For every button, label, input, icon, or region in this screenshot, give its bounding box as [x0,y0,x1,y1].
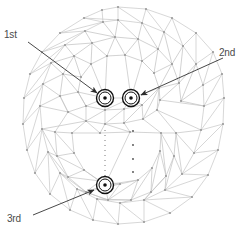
landmark-marker-3rd[interactable] [97,177,114,194]
figure-root: 1st 2nd 3rd [0,0,246,250]
mesh-figure-svg [0,0,246,250]
annotation-label-3rd: 3rd [7,214,21,224]
annotation-label-2nd: 2nd [219,48,235,58]
annotation-label-1st: 1st [4,30,17,40]
landmark-marker-1st[interactable] [97,90,114,107]
dotted-point-column [132,130,134,173]
mesh-eye-band [40,55,204,130]
arrow-2nd [141,58,223,95]
arrow-3rd [33,190,94,215]
landmark-marker-2nd[interactable] [123,90,140,107]
mesh-lower-region [42,110,201,203]
mesh-outer-shell [23,7,224,224]
mesh-vertices [22,6,225,225]
